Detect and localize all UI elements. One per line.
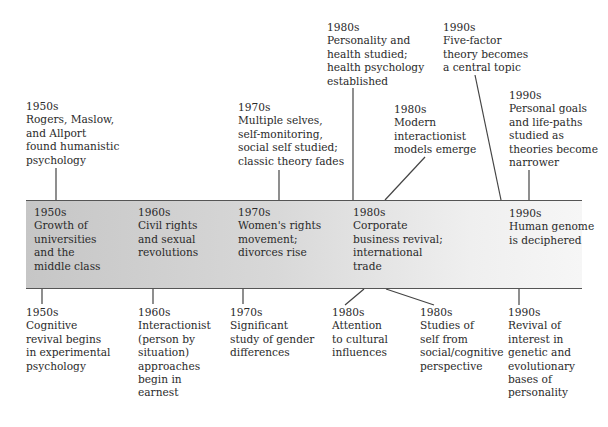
event-above-1950s-humanistic: 1950s Rogers, Maslow, and Allport found … — [26, 100, 119, 167]
era-label: 1980s — [394, 103, 476, 116]
era-label: 1950s — [26, 100, 119, 113]
event-above-1980s-interactionist: 1980s Modern interactionist models emerg… — [394, 103, 476, 157]
event-below-1980s-self-studies: 1980s Studies of self from social/cognit… — [420, 306, 504, 373]
event-above-1970s-selves: 1970s Multiple selves, self-monitoring, … — [238, 101, 344, 168]
era-label: 1980s — [420, 306, 504, 319]
era-label: 1980s — [332, 306, 388, 319]
era-label: 1990s — [509, 207, 594, 220]
event-below-1980s-cultural: 1980s Attention to cultural influences — [332, 306, 388, 360]
era-label: 1990s — [509, 89, 598, 102]
event-band-1970s-womens-rights: 1970s Women's rights movement; divorces … — [238, 206, 321, 260]
event-below-1960s-interactionist: 1960s Interactionist (person by situatio… — [138, 306, 211, 400]
event-above-1990s-fivefactor: 1990s Five-factor theory becomes a centr… — [443, 21, 528, 75]
connector-above-1980s-interactionist — [385, 157, 425, 200]
event-band-1950s-universities: 1950s Growth of universities and the mid… — [34, 206, 101, 273]
connector-below-1980s-self — [386, 289, 434, 305]
event-above-1980s-health: 1980s Personality and health studied; he… — [327, 21, 424, 88]
era-label: 1950s — [26, 306, 110, 319]
era-label: 1990s — [443, 21, 528, 34]
event-band-1990s-genome: 1990s Human genome is deciphered — [509, 207, 594, 247]
era-label: 1980s — [327, 21, 424, 34]
era-label: 1970s — [230, 306, 314, 319]
era-label: 1950s — [34, 206, 101, 219]
event-band-1960s-civil-rights: 1960s Civil rights and sexual revolution… — [138, 206, 198, 260]
era-label: 1960s — [138, 306, 211, 319]
era-label: 1990s — [508, 306, 575, 319]
era-label: 1980s — [353, 206, 443, 219]
event-below-1970s-gender: 1970s Significant study of gender differ… — [230, 306, 314, 360]
event-below-1950s-cognitive: 1950s Cognitive revival begins in experi… — [26, 306, 110, 373]
connector-below-1980s-cultural — [345, 289, 364, 305]
connector-above-1990s-fivefactor — [475, 75, 501, 200]
era-label: 1970s — [238, 206, 321, 219]
event-below-1990s-genetic: 1990s Revival of interest in genetic and… — [508, 306, 575, 400]
event-band-1980s-corporate: 1980s Corporate business revival; intern… — [353, 206, 443, 273]
event-above-1990s-goals: 1990s Personal goals and life-paths stud… — [509, 89, 598, 169]
era-label: 1970s — [238, 101, 344, 114]
era-label: 1960s — [138, 206, 198, 219]
